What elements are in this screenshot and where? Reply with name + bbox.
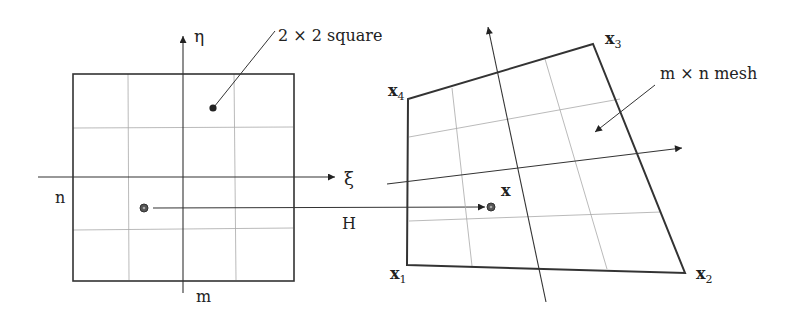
square-leader-line: [214, 31, 275, 107]
source-point-center: [143, 207, 146, 210]
vertex-x1-label: x1: [390, 264, 407, 286]
physical-element: [387, 27, 685, 302]
mapping-label-H: H: [342, 214, 356, 233]
quad-grid: [409, 59, 661, 269]
vertex-x2-label: x2: [696, 264, 713, 286]
target-point-center: [490, 206, 493, 209]
mapping-diagram: η 2 × 2 square ξ n m H m × n mesh x x4 x…: [0, 0, 797, 319]
vertex-x3-label: x3: [605, 29, 622, 51]
reference-square: [38, 31, 335, 293]
mapped-eta-axis: [488, 27, 546, 302]
point-x-label: x: [501, 181, 511, 200]
mapping-arrow: [153, 207, 485, 208]
square-dot: [209, 104, 216, 111]
eta-label: η: [194, 26, 204, 46]
xi-label: ξ: [344, 168, 354, 189]
mapped-xi-axis: [387, 148, 682, 184]
square-label: 2 × 2 square: [278, 26, 382, 45]
vertex-x4-label: x4: [388, 81, 405, 103]
quad-boundary: [407, 44, 685, 273]
m-label: m: [196, 287, 211, 306]
mesh-label: m × n mesh: [660, 64, 757, 83]
n-label: n: [55, 188, 65, 207]
